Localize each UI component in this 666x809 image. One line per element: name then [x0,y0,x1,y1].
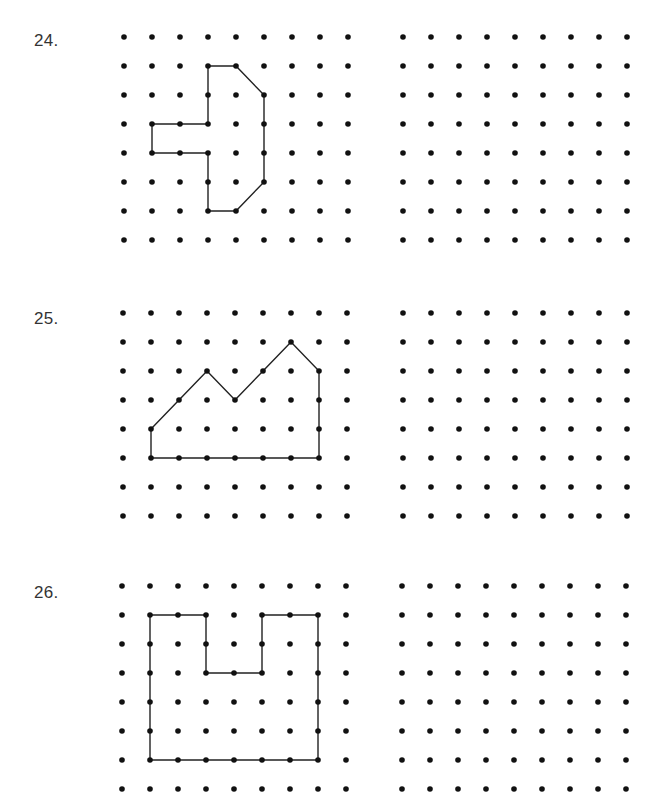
grid-dot[interactable] [427,641,433,647]
grid-dot[interactable] [400,397,406,403]
grid-dot[interactable] [595,728,601,734]
grid-dot[interactable] [511,612,517,618]
grid-dot[interactable] [567,583,573,589]
grid-dot[interactable] [596,513,602,519]
grid-dot[interactable] [623,728,629,734]
grid-dot[interactable] [455,728,461,734]
grid-dot[interactable] [456,310,462,316]
grid-dot[interactable] [399,699,405,705]
grid-dot[interactable] [623,583,629,589]
grid-dot[interactable] [455,641,461,647]
grid-dot[interactable] [623,786,629,792]
grid-dot[interactable] [540,455,546,461]
grid-dot[interactable] [512,455,518,461]
grid-dot[interactable] [595,641,601,647]
grid-dot[interactable] [511,641,517,647]
grid-dot[interactable] [568,455,574,461]
answer-dot-grid[interactable] [397,307,633,522]
grid-dot[interactable] [567,786,573,792]
grid-dot[interactable] [539,670,545,676]
grid-dot[interactable] [428,484,434,490]
grid-dot[interactable] [512,310,518,316]
grid-dot[interactable] [400,368,406,374]
grid-dot[interactable] [511,728,517,734]
grid-dot[interactable] [428,310,434,316]
grid-dot[interactable] [456,339,462,345]
grid-dot[interactable] [428,339,434,345]
grid-dot[interactable] [567,699,573,705]
grid-dot[interactable] [539,612,545,618]
grid-dot[interactable] [595,670,601,676]
grid-dot[interactable] [455,583,461,589]
grid-dot[interactable] [427,786,433,792]
grid-dot[interactable] [596,397,602,403]
grid-dot[interactable] [428,455,434,461]
grid-dot[interactable] [483,757,489,763]
grid-dot[interactable] [400,426,406,432]
grid-dot[interactable] [455,699,461,705]
grid-dot[interactable] [400,513,406,519]
grid-dot[interactable] [624,368,630,374]
grid-dot[interactable] [428,368,434,374]
grid-dot[interactable] [512,513,518,519]
grid-dot[interactable] [511,699,517,705]
grid-dot[interactable] [567,670,573,676]
grid-dot[interactable] [428,397,434,403]
grid-dot[interactable] [399,728,405,734]
grid-dot[interactable] [427,583,433,589]
grid-dot[interactable] [623,670,629,676]
grid-dot[interactable] [624,310,630,316]
grid-dot[interactable] [484,484,490,490]
grid-dot[interactable] [456,397,462,403]
grid-dot[interactable] [567,612,573,618]
grid-dot[interactable] [427,670,433,676]
grid-dot[interactable] [483,786,489,792]
grid-dot[interactable] [567,641,573,647]
grid-dot[interactable] [399,583,405,589]
grid-dot[interactable] [624,455,630,461]
grid-dot[interactable] [596,310,602,316]
grid-dot[interactable] [540,484,546,490]
grid-dot[interactable] [456,484,462,490]
grid-dot[interactable] [512,426,518,432]
grid-dot[interactable] [484,339,490,345]
grid-dot[interactable] [568,513,574,519]
grid-dot[interactable] [568,426,574,432]
grid-dot[interactable] [596,368,602,374]
grid-dot[interactable] [456,455,462,461]
grid-dot[interactable] [624,426,630,432]
grid-dot[interactable] [623,699,629,705]
answer-dot-grid[interactable] [396,580,632,795]
grid-dot[interactable] [483,583,489,589]
grid-dot[interactable] [399,641,405,647]
grid-dot[interactable] [455,670,461,676]
grid-dot[interactable] [484,310,490,316]
grid-dot[interactable] [483,728,489,734]
grid-dot[interactable] [455,612,461,618]
grid-dot[interactable] [539,757,545,763]
grid-dot[interactable] [539,699,545,705]
grid-dot[interactable] [428,426,434,432]
grid-dot[interactable] [539,583,545,589]
grid-dot[interactable] [483,612,489,618]
grid-dot[interactable] [399,786,405,792]
grid-dot[interactable] [455,786,461,792]
grid-dot[interactable] [512,397,518,403]
grid-dot[interactable] [399,757,405,763]
grid-dot[interactable] [484,455,490,461]
grid-dot[interactable] [427,757,433,763]
grid-dot[interactable] [400,455,406,461]
grid-dot[interactable] [456,513,462,519]
grid-dot[interactable] [596,339,602,345]
grid-dot[interactable] [567,728,573,734]
grid-dot[interactable] [512,484,518,490]
grid-dot[interactable] [540,368,546,374]
grid-dot[interactable] [595,786,601,792]
grid-dot[interactable] [568,339,574,345]
grid-dot[interactable] [483,641,489,647]
grid-dot[interactable] [456,426,462,432]
grid-dot[interactable] [427,728,433,734]
grid-dot[interactable] [624,484,630,490]
grid-dot[interactable] [511,757,517,763]
grid-dot[interactable] [539,641,545,647]
